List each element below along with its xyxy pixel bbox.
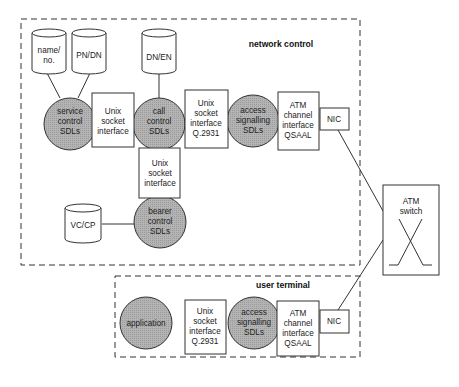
svg-text:no.: no. — [43, 56, 54, 65]
svg-text:ATM: ATM — [290, 309, 307, 318]
bearer-control-sdls: bearer control SDLs — [134, 196, 186, 248]
svg-text:SDLs: SDLs — [243, 126, 263, 135]
access-signalling-sdls-terminal: access signalling SDLs — [228, 297, 280, 349]
network-control-label: network control — [249, 39, 313, 49]
atm-channel-interface-box-network: ATM channel interface QSAAL — [278, 92, 319, 150]
svg-text:ATM: ATM — [403, 197, 420, 206]
svg-text:channel: channel — [284, 111, 313, 120]
svg-text:interface: interface — [144, 179, 176, 188]
svg-text:Q.2931: Q.2931 — [193, 129, 220, 138]
svg-text:SDLs: SDLs — [150, 227, 170, 236]
svg-text:socket: socket — [148, 169, 172, 178]
svg-text:socket: socket — [193, 317, 217, 326]
svg-text:access: access — [240, 106, 265, 115]
svg-text:Unix: Unix — [152, 159, 168, 168]
atm-switch: ATM switch — [383, 185, 439, 275]
service-control-sdls: service control SDLs — [44, 98, 96, 150]
svg-text:socket: socket — [194, 109, 218, 118]
access-signalling-sdls-network: access signalling SDLs — [227, 95, 279, 147]
database-vc-cp: VC/CP — [65, 204, 101, 243]
svg-text:PN/DN: PN/DN — [76, 51, 102, 60]
wire-name-no-to-service — [47, 73, 60, 98]
svg-text:ATM: ATM — [290, 101, 307, 110]
svg-text:QSAAL: QSAAL — [284, 339, 312, 348]
svg-text:signalling: signalling — [236, 116, 271, 125]
application-process: application — [120, 297, 172, 349]
svg-text:QSAAL: QSAAL — [284, 131, 312, 140]
svg-text:call: call — [153, 107, 165, 116]
call-control-sdls: call control SDLs — [133, 98, 185, 150]
svg-text:Q.2931: Q.2931 — [192, 337, 219, 346]
svg-text:name/: name/ — [38, 46, 61, 55]
nic-box-terminal: NIC — [320, 310, 349, 333]
svg-text:access: access — [241, 308, 266, 317]
svg-text:switch: switch — [400, 207, 423, 216]
unix-socket-q2931-box-network: Unix socket interface Q.2931 — [185, 90, 228, 148]
svg-text:interface: interface — [282, 121, 314, 130]
svg-text:control: control — [148, 217, 173, 226]
svg-text:Unix: Unix — [197, 307, 213, 316]
svg-text:VC/CP: VC/CP — [70, 221, 96, 230]
svg-text:DN/EN: DN/EN — [146, 53, 172, 62]
svg-text:interface: interface — [190, 119, 222, 128]
database-pn-dn: PN/DN — [72, 29, 106, 74]
svg-text:NIC: NIC — [327, 115, 341, 124]
svg-text:SDLs: SDLs — [149, 127, 169, 136]
user-terminal-label: user terminal — [256, 280, 310, 290]
nic-box-network: NIC — [320, 108, 349, 130]
svg-text:control: control — [147, 117, 172, 126]
svg-text:interface: interface — [97, 127, 129, 136]
svg-text:application: application — [126, 319, 166, 328]
database-dn-en: DN/EN — [142, 29, 176, 74]
svg-text:SDLs: SDLs — [60, 127, 80, 136]
svg-text:interface: interface — [282, 329, 314, 338]
svg-text:control: control — [58, 117, 83, 126]
svg-text:bearer: bearer — [148, 207, 172, 216]
unix-socket-interface-vertical-box: Unix socket interface — [139, 148, 180, 198]
svg-text:interface: interface — [189, 327, 221, 336]
unix-socket-interface-box: Unix socket interface — [92, 93, 134, 147]
svg-text:channel: channel — [284, 319, 313, 328]
wire-pndn-to-service — [78, 73, 90, 98]
svg-text:SDLs: SDLs — [244, 328, 264, 337]
database-name-no: name/ no. — [32, 29, 66, 74]
svg-text:Unix: Unix — [198, 99, 214, 108]
svg-text:socket: socket — [101, 117, 125, 126]
atm-channel-interface-box-terminal: ATM channel interface QSAAL — [277, 301, 319, 356]
svg-text:signalling: signalling — [237, 318, 272, 327]
svg-text:Unix: Unix — [105, 107, 121, 116]
svg-text:NIC: NIC — [327, 317, 341, 326]
architecture-diagram: network control user terminal name/ no. … — [0, 0, 459, 387]
unix-socket-q2931-box-terminal: Unix socket interface Q.2931 — [185, 300, 226, 354]
svg-text:service: service — [57, 107, 83, 116]
